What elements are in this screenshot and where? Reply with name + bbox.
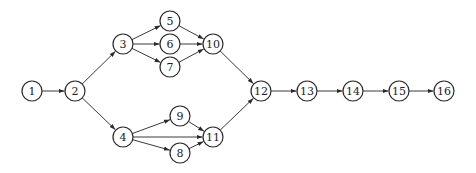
node-3: 3 (113, 34, 133, 54)
edge-9-to-11 (188, 121, 204, 131)
nodes-layer: 12345678910111213141516 (22, 11, 454, 163)
node-5: 5 (160, 11, 180, 31)
edge-3-to-7 (132, 48, 161, 62)
node-label: 1 (29, 85, 36, 98)
node-4: 4 (113, 127, 133, 147)
node-12: 12 (251, 81, 271, 101)
node-label: 7 (167, 61, 174, 74)
node-11: 11 (203, 127, 223, 147)
node-8: 8 (170, 143, 190, 163)
node-label: 14 (346, 85, 360, 98)
node-10: 10 (203, 34, 223, 54)
node-label: 9 (177, 110, 184, 123)
edge-11-to-12 (220, 98, 253, 130)
node-14: 14 (343, 81, 363, 101)
node-label: 5 (167, 15, 174, 28)
node-label: 8 (177, 147, 184, 160)
node-label: 2 (72, 85, 79, 98)
edge-10-to-12 (220, 51, 253, 84)
node-label: 12 (254, 85, 268, 98)
edge-2-to-4 (82, 98, 115, 130)
node-1: 1 (22, 81, 42, 101)
edge-4-to-8 (133, 140, 170, 150)
node-label: 15 (392, 85, 406, 98)
node-7: 7 (160, 57, 180, 77)
node-2: 2 (65, 81, 85, 101)
node-9: 9 (170, 106, 190, 126)
node-label: 11 (206, 131, 220, 144)
node-label: 6 (167, 38, 174, 51)
node-label: 13 (300, 85, 314, 98)
node-16: 16 (434, 81, 454, 101)
edge-5-to-10 (179, 26, 204, 39)
node-6: 6 (160, 34, 180, 54)
node-label: 10 (206, 38, 220, 51)
edge-3-to-5 (132, 26, 161, 40)
node-label: 3 (120, 38, 127, 51)
edge-8-to-11 (189, 142, 204, 149)
network-diagram: 12345678910111213141516 (0, 0, 476, 173)
edges-layer (42, 26, 434, 151)
edge-2-to-3 (82, 51, 115, 84)
node-label: 4 (120, 131, 127, 144)
edge-7-to-10 (179, 49, 204, 62)
edge-4-to-9 (132, 120, 170, 134)
node-13: 13 (297, 81, 317, 101)
node-15: 15 (389, 81, 409, 101)
node-label: 16 (437, 85, 451, 98)
